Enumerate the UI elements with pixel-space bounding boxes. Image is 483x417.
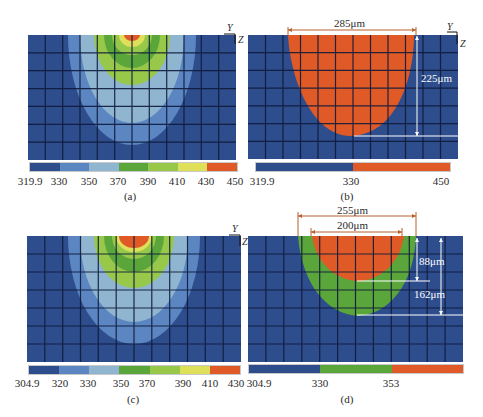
colorbar-c bbox=[28, 365, 241, 375]
tick: 304.9 bbox=[247, 377, 272, 389]
depth-label-b: 225μm bbox=[421, 72, 452, 84]
tick: 450 bbox=[227, 175, 244, 187]
contour-a-svg bbox=[28, 35, 236, 160]
axis-y-label-a: Y bbox=[227, 22, 233, 33]
tick: 353 bbox=[383, 377, 400, 389]
tick: 430 bbox=[228, 377, 245, 389]
tick: 430 bbox=[198, 175, 215, 187]
outer-width-label-d: 255μm bbox=[337, 204, 368, 216]
tick: 330 bbox=[51, 175, 68, 187]
colorbar-b bbox=[255, 162, 451, 172]
tick: 330 bbox=[343, 175, 360, 187]
tick: 390 bbox=[140, 175, 157, 187]
tick: 410 bbox=[202, 377, 219, 389]
contour-plot-a bbox=[28, 35, 236, 160]
inner-width-label-d: 200μm bbox=[337, 219, 368, 231]
axis-z-label-b: Z bbox=[460, 38, 466, 49]
axis-y-label-b: Y bbox=[447, 21, 453, 32]
caption-c: (c) bbox=[127, 393, 139, 405]
tick: 320 bbox=[52, 377, 69, 389]
tick: 330 bbox=[80, 377, 97, 389]
colorbar-a bbox=[29, 162, 238, 172]
caption-d: (d) bbox=[341, 393, 354, 405]
axis-y-label-c: Y bbox=[232, 223, 238, 234]
width-label-b: 285μm bbox=[334, 17, 365, 29]
tick: 370 bbox=[110, 175, 127, 187]
colorbar-d bbox=[248, 364, 464, 374]
caption-a: (a) bbox=[124, 190, 136, 202]
tick: 370 bbox=[139, 377, 156, 389]
inner-depth-label-d: 88μm bbox=[419, 255, 444, 267]
tick: 350 bbox=[81, 175, 98, 187]
tick: 450 bbox=[433, 175, 450, 187]
caption-b: (b) bbox=[341, 190, 354, 202]
tick: 410 bbox=[169, 175, 186, 187]
melt-pool-plot-b bbox=[248, 35, 458, 159]
contour-c-svg bbox=[27, 236, 241, 362]
tick: 319.9 bbox=[18, 175, 43, 187]
tick: 304.9 bbox=[15, 377, 40, 389]
tick: 350 bbox=[113, 377, 130, 389]
tick: 319.9 bbox=[250, 175, 275, 187]
melt-pool-b-svg bbox=[248, 35, 458, 159]
outer-depth-label-d: 162μm bbox=[414, 288, 445, 300]
axis-z-label-a: Z bbox=[238, 34, 244, 45]
contour-plot-c bbox=[27, 236, 241, 362]
tick: 330 bbox=[312, 377, 329, 389]
axis-z-label-c: Z bbox=[242, 236, 248, 247]
tick: 390 bbox=[175, 377, 192, 389]
